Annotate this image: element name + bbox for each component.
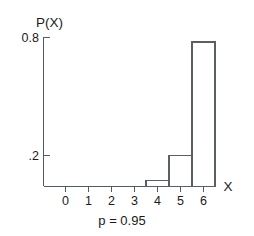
x-tick-label-0: 0 xyxy=(62,194,69,208)
x-tick-label-6: 6 xyxy=(200,194,207,208)
x-tick-label-4: 4 xyxy=(154,194,161,208)
bar-x5 xyxy=(169,156,192,187)
x-axis-title: X xyxy=(223,179,232,194)
y-tick-label-top: 0.8 xyxy=(22,31,39,45)
x-tick-label-1: 1 xyxy=(85,194,92,208)
bar-x4 xyxy=(146,181,169,187)
chart-canvas: P(X) X 0.8 .2 0 1 2 3 4 5 6 p = 0.95 xyxy=(0,0,254,236)
probability-histogram-figure: P(X) X 0.8 .2 0 1 2 3 4 5 6 p = 0.95 xyxy=(0,0,254,236)
x-tick-label-3: 3 xyxy=(131,194,138,208)
y-axis-title: P(X) xyxy=(36,15,63,30)
chart-caption: p = 0.95 xyxy=(98,213,145,228)
x-tick-label-2: 2 xyxy=(108,194,115,208)
x-tick-label-5: 5 xyxy=(177,194,184,208)
y-tick-label-mid: .2 xyxy=(29,149,39,163)
bar-x6 xyxy=(192,42,215,187)
